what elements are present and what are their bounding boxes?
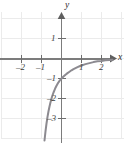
y-axis-arrowhead [58, 12, 66, 19]
y-tick-label-minus2: –2 [47, 94, 56, 103]
x-axis-label: x [118, 53, 122, 63]
x-tick-label-2: 2 [99, 63, 104, 72]
y-tick-label-minus1: –1 [47, 74, 56, 83]
grid-lines [2, 12, 125, 139]
x-tick-label-minus2: –2 [16, 63, 25, 72]
y-axis-label: y [65, 1, 69, 11]
x-tick-label-minus1: –1 [36, 63, 45, 72]
x-tick-label-1: 1 [79, 63, 84, 72]
y-tick-label-1: 1 [51, 34, 56, 43]
graph-figure: –2 –1 1 2 1 –1 –2 –3 x y [0, 0, 128, 143]
y-tick-label-minus3: –3 [47, 114, 56, 123]
x-axis-arrowhead [110, 55, 117, 63]
